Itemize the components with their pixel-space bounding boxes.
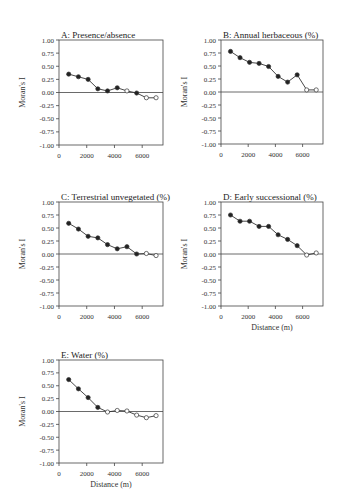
nonsignificant-point-marker xyxy=(305,253,309,257)
series-line xyxy=(69,74,156,98)
y-tick-label: 0.50 xyxy=(42,382,55,390)
significant-point-marker xyxy=(115,247,119,251)
y-tick-label: 0.25 xyxy=(42,238,55,246)
y-tick-label: -1.00 xyxy=(39,460,54,468)
y-tick-label: 0.75 xyxy=(204,212,217,220)
y-tick-label: -0.25 xyxy=(201,264,216,272)
x-tick-label: 2000 xyxy=(80,470,95,478)
y-tick-label: -0.50 xyxy=(39,115,54,123)
y-tick-label: 0.75 xyxy=(204,50,217,58)
y-axis-label: Moran's I xyxy=(18,77,27,108)
nonsignificant-point-marker xyxy=(115,408,119,412)
significant-point-marker xyxy=(267,224,271,228)
y-tick-label: 0.75 xyxy=(42,369,55,377)
significant-point-marker xyxy=(67,377,71,381)
y-tick-label: 0.25 xyxy=(204,238,217,246)
y-tick-label: 0.00 xyxy=(204,89,217,97)
y-tick-label: 0.50 xyxy=(204,63,217,71)
significant-point-marker xyxy=(257,224,261,228)
x-axis-label: Distance (m) xyxy=(251,323,293,332)
x-tick-label: 6000 xyxy=(296,313,311,321)
panel-title: E: Water (%) xyxy=(61,350,108,360)
y-tick-label: -0.75 xyxy=(201,290,216,298)
y-tick-label: -0.50 xyxy=(201,277,216,285)
y-tick-label: 1.00 xyxy=(42,357,55,365)
significant-point-marker xyxy=(76,75,80,79)
y-tick-label: -1.00 xyxy=(201,303,216,311)
x-tick-label: 2000 xyxy=(241,313,256,321)
significant-point-marker xyxy=(247,219,251,223)
y-axis-label: Moran's I xyxy=(180,238,189,269)
significant-point-marker xyxy=(238,56,242,60)
y-tick-label: 0.25 xyxy=(42,76,55,84)
x-tick-label: 0 xyxy=(57,313,61,321)
significant-point-marker xyxy=(286,237,290,241)
x-tick-label: 6000 xyxy=(135,152,150,160)
nonsignificant-point-marker xyxy=(154,414,158,418)
significant-point-marker xyxy=(96,236,100,240)
panel-title: D: Early successional (%) xyxy=(223,192,317,202)
nonsignificant-point-marker xyxy=(144,251,148,255)
significant-point-marker xyxy=(86,395,90,399)
nonsignificant-point-marker xyxy=(314,251,318,255)
nonsignificant-point-marker xyxy=(314,88,318,92)
y-tick-label: 0.25 xyxy=(204,76,217,84)
panel-title: B: Annual herbaceous (%) xyxy=(223,30,318,40)
x-axis-label: Distance (m) xyxy=(90,480,132,489)
x-tick-label: 6000 xyxy=(135,313,150,321)
y-tick-label: -0.25 xyxy=(39,264,54,272)
y-axis-label: Moran's I xyxy=(18,238,27,269)
y-tick-label: 0.75 xyxy=(42,50,55,58)
significant-point-marker xyxy=(105,243,109,247)
x-tick-label: 4000 xyxy=(268,313,283,321)
series-line xyxy=(69,380,156,418)
y-tick-label: 0.50 xyxy=(42,63,55,71)
x-tick-label: 2000 xyxy=(80,313,95,321)
y-tick-label: -0.50 xyxy=(39,434,54,442)
panel-c: 1.000.750.500.250.00-0.25-0.50-0.75-1.00… xyxy=(18,192,170,321)
significant-point-marker xyxy=(276,74,280,78)
y-tick-label: -0.50 xyxy=(39,277,54,285)
y-tick-label: -1.00 xyxy=(39,303,54,311)
x-tick-label: 0 xyxy=(57,470,61,478)
y-tick-label: 0.00 xyxy=(42,408,55,416)
significant-point-marker xyxy=(295,244,299,248)
significant-point-marker xyxy=(86,77,90,81)
y-tick-label: 0.75 xyxy=(42,212,55,220)
nonsignificant-point-marker xyxy=(154,96,158,100)
panel-a: 1.000.750.500.250.00-0.25-0.50-0.75-1.00… xyxy=(18,30,163,160)
significant-point-marker xyxy=(67,221,71,225)
series-line xyxy=(69,223,156,255)
significant-point-marker xyxy=(267,64,271,68)
panel-title: C: Terrestrial unvegetated (%) xyxy=(61,192,170,202)
y-tick-label: 1.00 xyxy=(204,37,217,45)
series-line xyxy=(231,215,317,255)
significant-point-marker xyxy=(228,213,232,217)
x-tick-label: 4000 xyxy=(107,152,122,160)
significant-point-marker xyxy=(96,405,100,409)
x-tick-label: 2000 xyxy=(241,151,256,159)
y-tick-label: -0.75 xyxy=(39,290,54,298)
x-tick-label: 4000 xyxy=(107,313,122,321)
significant-point-marker xyxy=(125,245,129,249)
significant-point-marker xyxy=(238,219,242,223)
y-tick-label: 0.00 xyxy=(42,251,55,259)
series-line xyxy=(231,51,317,90)
y-tick-label: -0.75 xyxy=(201,128,216,136)
nonsignificant-point-marker xyxy=(125,409,129,413)
x-tick-label: 0 xyxy=(57,152,61,160)
y-tick-label: -0.75 xyxy=(39,128,54,136)
significant-point-marker xyxy=(135,91,139,95)
significant-point-marker xyxy=(276,233,280,237)
y-axis-label: Moran's I xyxy=(18,396,27,427)
x-tick-label: 6000 xyxy=(296,151,311,159)
panel-b: 1.000.750.500.250.00-0.25-0.50-0.75-1.00… xyxy=(180,30,323,159)
x-tick-label: 4000 xyxy=(268,151,283,159)
y-axis-label: Moran's I xyxy=(180,76,189,107)
significant-point-marker xyxy=(135,252,139,256)
y-tick-label: -0.25 xyxy=(39,421,54,429)
nonsignificant-point-marker xyxy=(144,96,148,100)
y-tick-label: 0.25 xyxy=(42,395,55,403)
significant-point-marker xyxy=(76,387,80,391)
panel-d: 1.000.750.500.250.00-0.25-0.50-0.75-1.00… xyxy=(180,192,323,332)
